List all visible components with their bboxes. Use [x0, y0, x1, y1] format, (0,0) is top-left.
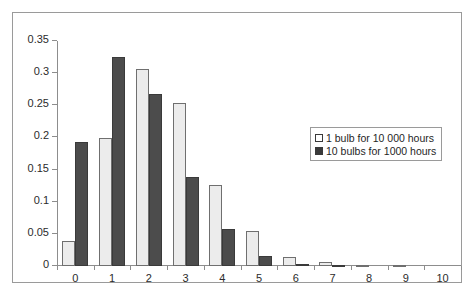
x-axis-tick: [57, 266, 58, 270]
x-axis-tick-label: 2: [129, 272, 169, 284]
bar: [136, 69, 149, 266]
x-axis-tick: [204, 266, 205, 270]
bar: [99, 138, 112, 266]
y-axis-tick-label: 0.15: [13, 163, 49, 174]
bar: [319, 262, 332, 266]
y-axis-tick: [52, 233, 57, 234]
y-axis-tick-label: 0.05: [13, 227, 49, 238]
y-axis-line: [57, 41, 58, 266]
bar: [283, 257, 296, 266]
y-axis-tick-label: 0.25: [13, 98, 49, 109]
bar: [173, 103, 186, 266]
x-axis-tick-label: 4: [202, 272, 242, 284]
x-axis-tick: [424, 266, 425, 270]
bar: [259, 256, 272, 266]
legend-swatch-light: [315, 134, 323, 142]
bar: [222, 229, 235, 266]
legend-label: 10 bulbs for 1000 hours: [326, 145, 436, 157]
bar: [356, 265, 369, 267]
x-axis-tick: [130, 266, 131, 270]
x-axis-tick: [388, 266, 389, 270]
bar: [62, 241, 75, 266]
bar: [332, 265, 345, 267]
bar: [393, 265, 406, 267]
bar: [186, 177, 199, 266]
x-axis-tick-label: 8: [349, 272, 389, 284]
x-axis-tick: [241, 266, 242, 270]
y-axis-tick-label: 0.1: [13, 195, 49, 206]
x-axis-tick-label: 10: [423, 272, 463, 284]
x-axis-tick-label: 5: [239, 272, 279, 284]
x-axis-tick: [94, 266, 95, 270]
x-axis-tick: [461, 266, 462, 270]
bar: [246, 231, 259, 266]
x-axis-tick-label: 6: [276, 272, 316, 284]
x-axis-tick-label: 9: [386, 272, 426, 284]
x-axis-tick: [351, 266, 352, 270]
legend-label: 1 bulb for 10 000 hours: [326, 132, 434, 144]
y-axis-tick-label: 0: [13, 259, 49, 270]
chart-frame: 00.050.10.150.20.250.30.35 012345678910 …: [12, 12, 462, 283]
bar: [209, 185, 222, 266]
x-axis-tick-label: 1: [92, 272, 132, 284]
x-axis-tick: [314, 266, 315, 270]
x-axis-tick-label: 0: [55, 272, 95, 284]
y-axis-tick-label: 0.35: [13, 34, 49, 45]
chart-legend: 1 bulb for 10 000 hours10 bulbs for 1000…: [310, 127, 442, 161]
y-axis-tick: [52, 136, 57, 137]
x-axis-tick-label: 3: [166, 272, 206, 284]
y-axis-tick: [52, 201, 57, 202]
chart-figure: 00.050.10.150.20.250.30.35 012345678910 …: [0, 0, 474, 294]
x-axis-tick-label: 7: [312, 272, 352, 284]
y-axis-tick: [52, 104, 57, 105]
legend-swatch-dark: [315, 147, 323, 155]
y-axis-tick: [52, 40, 57, 41]
bar: [75, 142, 88, 266]
y-axis-tick-label: 0.2: [13, 130, 49, 141]
bar: [149, 94, 162, 266]
bar: [296, 264, 309, 266]
legend-entry: 1 bulb for 10 000 hours: [315, 131, 436, 144]
y-axis-tick: [52, 72, 57, 73]
x-axis-tick: [167, 266, 168, 270]
y-axis-tick: [52, 169, 57, 170]
bar: [112, 57, 125, 266]
y-axis-tick-label: 0.3: [13, 66, 49, 77]
legend-entry: 10 bulbs for 1000 hours: [315, 144, 436, 157]
x-axis-tick: [277, 266, 278, 270]
